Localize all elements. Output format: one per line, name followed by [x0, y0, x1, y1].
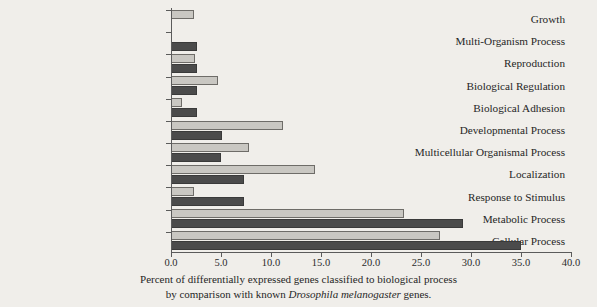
bar-light: [171, 187, 194, 196]
y-axis-category-label: Multicellular Organismal Process: [0, 146, 565, 158]
x-axis-tick-label: 30.0: [462, 257, 480, 269]
x-axis-tick-label: 0.0: [164, 257, 177, 269]
x-axis-tick-label: 25.0: [412, 257, 430, 269]
figure-caption: Percent of differentially expressed gene…: [0, 272, 597, 301]
bar-dark: [171, 175, 244, 184]
bar-dark: [171, 219, 463, 228]
x-axis-tick-label: 10.0: [262, 257, 280, 269]
caption-line-2: by comparison with known Drosophila mela…: [0, 287, 597, 302]
x-axis-tick-label: 20.0: [362, 257, 380, 269]
caption-line-2-post: genes.: [401, 288, 432, 300]
x-axis-tick-label: 5.0: [214, 257, 227, 269]
bar-light: [171, 143, 249, 152]
bar-light: [171, 98, 182, 107]
y-axis-category-label: Multi-Organism Process: [0, 35, 565, 47]
bar-light: [171, 121, 283, 130]
bar-dark: [171, 64, 197, 73]
figure-bar-chart: GrowthMulti-Organism ProcessReproduction…: [0, 0, 597, 307]
y-axis-category-label: Response to Stimulus: [0, 191, 565, 203]
plot-area: GrowthMulti-Organism ProcessReproduction…: [171, 8, 571, 252]
x-axis-tick-label: 15.0: [312, 257, 330, 269]
bar-light: [171, 209, 404, 218]
bar-dark: [171, 86, 197, 95]
bar-dark: [171, 197, 244, 206]
y-axis-category-label: Biological Adhesion: [0, 102, 565, 114]
y-axis-category-label: Reproduction: [0, 57, 565, 69]
bar-dark: [171, 153, 221, 162]
x-axis-tick-label: 40.0: [562, 257, 580, 269]
bar-light: [171, 54, 195, 63]
bar-light: [171, 76, 218, 85]
caption-line-2-pre: by comparison with known: [166, 288, 289, 300]
bar-dark: [171, 131, 222, 140]
y-axis-category-label: Biological Regulation: [0, 80, 565, 92]
bar-light: [171, 10, 194, 19]
y-axis-line: [171, 8, 172, 252]
caption-species-name: Drosophila melanogaster: [288, 288, 400, 300]
bar-light: [171, 231, 440, 240]
bar-dark: [171, 42, 197, 51]
y-axis-category-label: Growth: [0, 13, 565, 25]
bar-light: [171, 165, 315, 174]
caption-line-1: Percent of differentially expressed gene…: [0, 272, 597, 287]
bar-dark: [171, 241, 521, 250]
x-axis-tick-label: 35.0: [512, 257, 530, 269]
bar-dark: [171, 108, 197, 117]
